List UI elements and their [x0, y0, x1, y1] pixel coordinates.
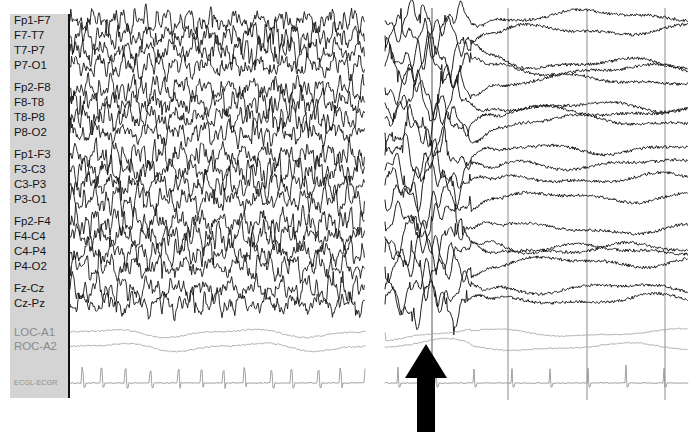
channel-label-fp1-f3: Fp1-F3 — [14, 149, 50, 161]
channel-label-p3-o1: P3-O1 — [14, 194, 47, 206]
channel-label-fp1-f7: Fp1-F7 — [14, 15, 50, 27]
eeg-figure: Fp1-F7F7-T7T7-P7P7-O1Fp2-F8F8-T8T8-P8P8-… — [0, 0, 691, 433]
channel-label-t7-p7: T7-P7 — [14, 45, 45, 57]
channel-label-roc-a2: ROC-A2 — [14, 341, 57, 353]
event-onset-arrow-icon — [403, 342, 449, 433]
channel-label-cz-pz: Cz-Pz — [14, 298, 45, 310]
channel-label-fz-cz: Fz-Cz — [14, 283, 44, 295]
channel-label-t8-p8: T8-P8 — [14, 112, 45, 124]
channel-label-ecgl-ecgr: ECGL-ECGR — [14, 379, 58, 386]
channel-label-p4-o2: P4-O2 — [14, 261, 47, 273]
channel-label-p8-o2: P8-O2 — [14, 127, 47, 139]
channel-label-f3-c3: F3-C3 — [14, 164, 45, 176]
channel-label-f4-c4: F4-C4 — [14, 231, 45, 243]
left-panel-axis-line — [68, 14, 70, 398]
channel-label-c4-p4: C4-P4 — [14, 246, 46, 258]
channel-label-c3-p3: C3-P3 — [14, 179, 46, 191]
channel-label-f8-t8: F8-T8 — [14, 97, 44, 109]
left-eeg-panel: Fp1-F7F7-T7T7-P7P7-O1Fp2-F8F8-T8T8-P8P8-… — [0, 0, 368, 433]
channel-label-fp2-f4: Fp2-F4 — [14, 216, 50, 228]
channel-label-p7-o1: P7-O1 — [14, 60, 47, 72]
channel-label-fp2-f8: Fp2-F8 — [14, 82, 50, 94]
channel-label-f7-t7: F7-T7 — [14, 30, 44, 42]
channel-label-column: Fp1-F7F7-T7T7-P7P7-O1Fp2-F8F8-T8T8-P8P8-… — [10, 14, 68, 398]
channel-label-loc-a1: LOC-A1 — [14, 327, 55, 339]
